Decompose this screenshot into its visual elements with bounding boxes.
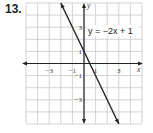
y-tick-label: −3 <box>75 96 83 104</box>
y-tick-label: 1 <box>79 48 83 56</box>
graph: −3−11331−1−3 y = −2x + 1 y x <box>0 0 153 133</box>
y-tick-label: −1 <box>75 72 83 80</box>
y-tick-label: 3 <box>79 24 83 32</box>
x-axis-label: x <box>136 65 141 74</box>
x-tick-label: 3 <box>117 67 121 75</box>
equation-label-group: y = −2x + 1 <box>87 25 139 36</box>
x-tick-label: −3 <box>45 67 53 75</box>
axes <box>22 3 143 124</box>
y-axis-label: y <box>86 1 91 10</box>
equation-label: y = −2x + 1 <box>88 26 133 36</box>
